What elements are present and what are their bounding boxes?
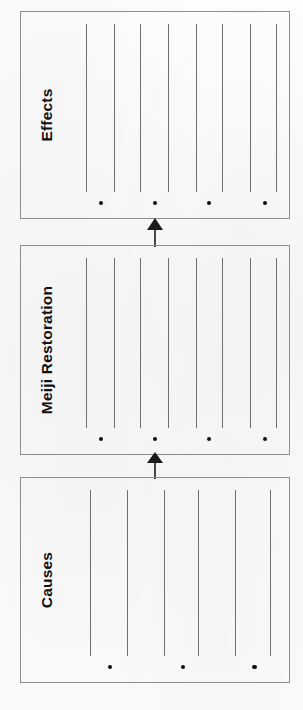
bullet-point-icon	[99, 437, 103, 441]
rule-line	[86, 258, 87, 428]
bullet-point-icon	[263, 437, 267, 441]
rule-line	[164, 490, 165, 656]
effects-title-text: Effects	[38, 88, 56, 141]
causes-bullet-row	[73, 662, 289, 674]
bullet-point-icon	[207, 201, 211, 205]
rule-line	[270, 490, 271, 656]
meiji-restoration-title-text: Meiji Restoration	[38, 286, 56, 414]
rule-line	[90, 490, 91, 656]
rule-line	[196, 258, 197, 428]
bullet-point-icon	[207, 437, 211, 441]
rule-line	[168, 258, 169, 428]
rule-line	[222, 24, 223, 192]
effects-bullet-row	[73, 198, 289, 210]
rule-line	[250, 258, 251, 428]
bullet-point-icon	[99, 201, 103, 205]
organizer-box-causes[interactable]: Causes	[20, 477, 290, 683]
bullet-point-icon	[263, 201, 267, 205]
meiji-restoration-title: Meiji Restoration	[21, 246, 73, 454]
meiji-rule-lines	[73, 246, 289, 454]
causes-label-column: Causes	[21, 478, 73, 682]
rule-line	[114, 258, 115, 428]
bullet-point-icon	[181, 665, 185, 669]
bullet-point-icon	[252, 665, 256, 669]
organizer-box-effects[interactable]: Effects	[20, 11, 290, 219]
arrow-meiji-to-effects	[0, 218, 303, 248]
bullet-point-icon	[153, 437, 157, 441]
effects-rule-lines	[73, 12, 289, 218]
rule-line	[168, 24, 169, 192]
rule-line	[198, 490, 199, 656]
organizer-box-meiji-restoration[interactable]: Meiji Restoration	[20, 245, 290, 455]
bullet-point-icon	[108, 665, 112, 669]
rule-line	[235, 490, 236, 656]
rule-line	[140, 24, 141, 192]
rule-line	[127, 490, 128, 656]
bullet-point-icon	[153, 201, 157, 205]
effects-label-column: Effects	[21, 12, 73, 218]
causes-rule-lines	[73, 478, 289, 682]
cause-effect-graphic-organizer: Effects Meiji Res	[0, 0, 303, 710]
causes-title-text: Causes	[38, 552, 56, 608]
rule-line	[222, 258, 223, 428]
meiji-label-column: Meiji Restoration	[21, 246, 73, 454]
up-arrow-icon	[0, 218, 303, 248]
effects-title: Effects	[21, 12, 73, 218]
causes-title: Causes	[21, 478, 73, 682]
rule-line	[196, 24, 197, 192]
rule-line	[114, 24, 115, 192]
rule-line	[250, 24, 251, 192]
meiji-bullet-row	[73, 434, 289, 446]
rule-line	[276, 24, 277, 192]
rule-line	[276, 258, 277, 428]
rule-line	[140, 258, 141, 428]
rule-line	[86, 24, 87, 192]
